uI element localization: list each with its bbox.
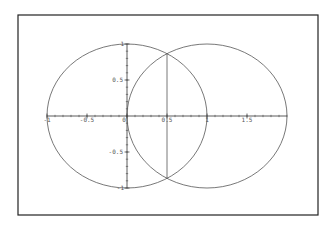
y-tick-label: 1 (120, 40, 124, 47)
x-tick-label: -0.5 (80, 116, 95, 123)
tick-labels: -1-0.500.511.510.5-0.5-1 (43, 40, 252, 191)
x-tick-label: 0 (122, 116, 126, 123)
x-tick-label: 0.5 (162, 116, 173, 123)
y-tick-label: 0.5 (112, 76, 123, 83)
x-tick-label: 1.5 (242, 116, 253, 123)
y-tick-label: -1 (117, 184, 125, 191)
x-tick-label: -1 (43, 116, 51, 123)
x-tick-label: 1 (205, 116, 209, 123)
y-tick-label: -0.5 (109, 148, 124, 155)
chart: -1-0.500.511.510.5-0.5-1 (0, 0, 334, 228)
